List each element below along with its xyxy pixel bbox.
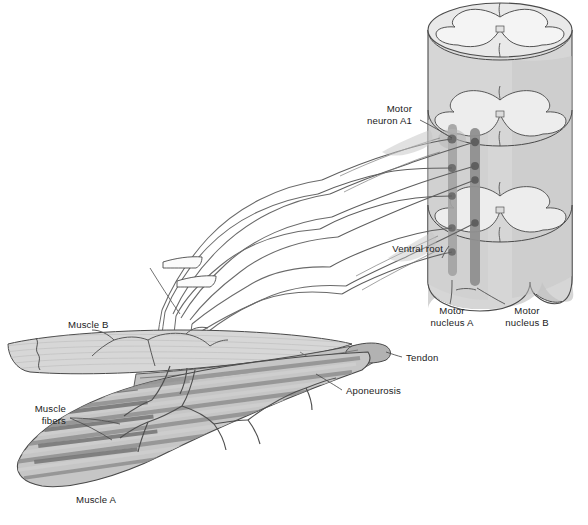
label-tendon: Tendon xyxy=(406,352,438,363)
label-motor-neuron-a1-line1: Motor xyxy=(387,103,413,114)
label-aponeurosis: Aponeurosis xyxy=(346,385,401,396)
label-muscle-a: Muscle A xyxy=(76,494,117,505)
motor-nucleus-b xyxy=(470,128,480,286)
ventral-root-cuff-upper xyxy=(382,130,432,156)
diagram-canvas: Motor neuron A1 Ventral root Motor nucle… xyxy=(0,0,588,525)
anatomical-diagram: Motor neuron A1 Ventral root Motor nucle… xyxy=(0,0,588,525)
label-motor-neuron-a1-line2: neuron A1 xyxy=(367,115,412,126)
cord-top-face xyxy=(428,3,572,57)
spinal-cord xyxy=(318,3,573,311)
label-muscle-fibers-line2: fibers xyxy=(42,415,66,426)
label-muscle-fibers-line1: Muscle xyxy=(35,403,66,414)
label-motor-nucleus-b-line2: nucleus B xyxy=(505,317,548,328)
label-muscle-b: Muscle B xyxy=(68,319,109,330)
label-motor-nucleus-a-line1: Motor xyxy=(439,305,465,316)
label-motor-nucleus-a-line2: nucleus A xyxy=(431,317,474,328)
label-motor-nucleus-b-line1: Motor xyxy=(514,305,540,316)
nerve-break-mark xyxy=(150,257,216,314)
label-ventral-root: Ventral root xyxy=(392,243,443,254)
